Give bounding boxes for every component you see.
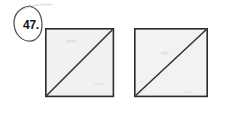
square-left-group	[46, 29, 114, 97]
square-right-group	[135, 29, 207, 97]
problem-number-label: 47.	[19, 17, 43, 33]
square-left-smudge-upper	[66, 39, 76, 42]
figure-canvas: 47.	[0, 0, 225, 117]
square-left-smudge-lower	[94, 82, 104, 85]
square-right-smudge-lower	[183, 91, 193, 94]
square-right-smudge-upper	[161, 52, 169, 55]
